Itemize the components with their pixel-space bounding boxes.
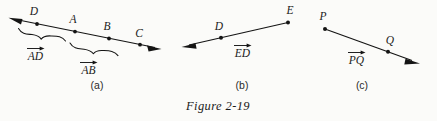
- panel-a-vector-AD-letters: AD: [27, 50, 44, 62]
- panel-b: E D ED (b): [182, 4, 294, 91]
- panel-c-point-P-dot: [323, 27, 327, 31]
- panel-a-label-C: C: [135, 27, 143, 39]
- panel-a-label-B: B: [103, 20, 110, 32]
- panel-b-label-D: D: [214, 20, 224, 32]
- panel-a-vector-AB-letters: AB: [80, 64, 95, 76]
- panel-a-left-arrowhead: [9, 18, 23, 25]
- panel-a-brace-AB: [70, 43, 118, 56]
- panel-a-vector-AB: AB: [80, 61, 98, 77]
- panel-c-vector-PQ: PQ: [348, 51, 366, 67]
- panel-a-brace-AD: [19, 29, 66, 42]
- panel-b-label-E: E: [285, 4, 293, 16]
- figure-2-19: D A B C AD AB (a): [0, 0, 437, 121]
- panel-a-label-D: D: [29, 5, 39, 17]
- panel-a-point-A-dot: [73, 30, 77, 34]
- figure-caption: Figure 2-19: [185, 99, 250, 113]
- panel-a: D A B C AD AB (a): [9, 5, 162, 91]
- panel-a-caption: (a): [91, 79, 104, 91]
- panel-a-right-arrowhead: [147, 46, 162, 52]
- panel-a-point-C-dot: [138, 43, 142, 47]
- panel-b-vector-ED: ED: [234, 44, 252, 60]
- panel-a-vector-AD: AD: [27, 47, 45, 63]
- figure-canvas: D A B C AD AB (a): [0, 0, 437, 121]
- panel-b-line: [189, 23, 288, 46]
- panel-b-vector-ED-letters: ED: [234, 47, 251, 59]
- panel-b-point-E-dot: [286, 21, 290, 25]
- panel-b-point-D-dot: [219, 36, 223, 40]
- panel-c-label-Q: Q: [386, 34, 395, 46]
- panel-c-point-Q-dot: [386, 50, 390, 54]
- panel-a-point-D-dot: [35, 22, 39, 26]
- panel-a-point-B-dot: [107, 37, 111, 41]
- panel-c-caption: (c): [356, 79, 368, 91]
- panel-a-label-A: A: [68, 13, 77, 25]
- panel-c-vector-PQ-letters: PQ: [348, 54, 365, 66]
- panel-b-left-arrowhead: [182, 43, 197, 49]
- panel-c-right-arrowhead: [404, 59, 420, 65]
- panel-c: P Q PQ (c): [318, 10, 420, 91]
- panel-c-line: [325, 29, 412, 61]
- panel-c-label-P: P: [318, 10, 326, 22]
- panel-b-caption: (b): [236, 79, 249, 91]
